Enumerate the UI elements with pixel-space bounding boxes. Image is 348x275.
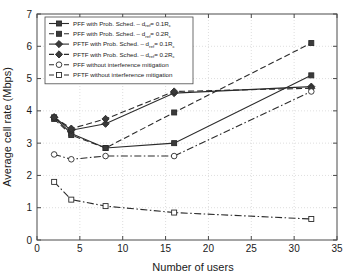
y-tick-label: 2 <box>26 170 32 181</box>
data-point-marker <box>309 73 314 78</box>
x-tick-label: 0 <box>34 243 40 254</box>
chart-figure: 05101520253035 01234567 Number of users … <box>0 0 348 275</box>
x-tick-label: 15 <box>160 243 172 254</box>
x-tick-label: 10 <box>117 243 129 254</box>
data-point-marker <box>103 204 108 209</box>
y-tick-label: 5 <box>26 73 32 84</box>
data-point-marker <box>103 153 109 159</box>
y-tick-label: 6 <box>26 41 32 52</box>
data-point-marker <box>57 21 62 26</box>
data-point-marker <box>309 41 314 46</box>
data-point-marker <box>309 217 314 222</box>
y-axis-title: Average cell rate (Mbps) <box>1 67 13 187</box>
data-point-marker <box>51 152 57 158</box>
y-tick-label: 4 <box>26 105 32 116</box>
x-tick-label: 5 <box>77 243 83 254</box>
legend-label: PFF without interference mitigation <box>73 61 169 68</box>
line-chart: 05101520253035 01234567 Number of users … <box>0 0 348 275</box>
y-tick-label: 7 <box>26 9 32 20</box>
y-tick-label: 3 <box>26 138 32 149</box>
y-tick-label: 0 <box>26 235 32 246</box>
data-point-marker <box>69 197 74 202</box>
legend-label: PFTF without interference mitigation <box>73 71 173 78</box>
data-point-marker <box>172 141 177 146</box>
x-tick-label: 35 <box>331 243 343 254</box>
data-point-marker <box>308 89 314 95</box>
data-point-marker <box>103 145 108 150</box>
x-tick-label: 30 <box>289 243 301 254</box>
data-point-marker <box>57 31 62 36</box>
x-axis-title: Number of users <box>152 261 234 273</box>
data-point-marker <box>171 153 177 159</box>
data-point-marker <box>56 62 62 68</box>
x-tick-label: 20 <box>203 243 215 254</box>
data-point-marker <box>68 156 74 162</box>
data-point-marker <box>172 110 177 115</box>
data-point-marker <box>57 73 62 78</box>
chart-legend: PFF with Prob. Sched. – dref= 0.1RcPFF w… <box>45 17 193 84</box>
y-tick-label: 1 <box>26 202 32 213</box>
data-point-marker <box>52 179 57 184</box>
x-tick-label: 25 <box>246 243 258 254</box>
data-point-marker <box>172 210 177 215</box>
